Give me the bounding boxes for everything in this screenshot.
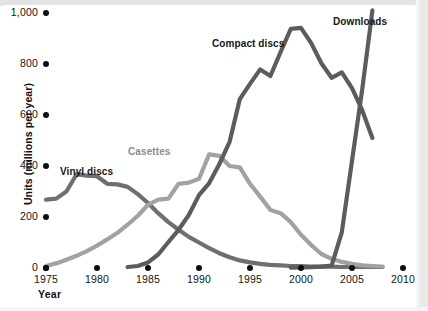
y-axis-title: Units (millions per year) xyxy=(22,69,34,219)
series-line-vinyl-discs xyxy=(46,174,383,267)
x-tick-label: 1975 xyxy=(24,273,68,285)
series-label-vinyl-discs: Vinyl discs xyxy=(60,166,113,177)
y-tick-dot xyxy=(43,163,49,169)
y-tick-dot xyxy=(43,61,49,67)
x-tick-label: 2010 xyxy=(381,273,425,285)
series-line-downloads xyxy=(291,10,373,267)
x-tick-dot xyxy=(247,265,253,271)
x-tick-dot xyxy=(145,265,151,271)
chart-page: 02004006008001,0001975198019851990199520… xyxy=(0,0,428,311)
x-tick-dot xyxy=(349,265,355,271)
x-axis-title: Year xyxy=(38,288,61,300)
x-tick-dot xyxy=(400,265,406,271)
y-tick-dot xyxy=(43,214,49,220)
y-tick-dot xyxy=(43,112,49,118)
series-label-casettes: Casettes xyxy=(128,146,171,157)
x-tick-label: 2005 xyxy=(330,273,374,285)
y-tick-label: 0 xyxy=(0,261,38,273)
x-tick-label: 1995 xyxy=(228,273,272,285)
x-tick-label: 1990 xyxy=(177,273,221,285)
y-tick-label: 1,000 xyxy=(0,6,38,18)
x-tick-dot xyxy=(43,265,49,271)
x-tick-label: 1985 xyxy=(126,273,170,285)
x-tick-dot xyxy=(196,265,202,271)
series-label-downloads: Downloads xyxy=(333,16,387,27)
series-label-compact-discs: Compact discs xyxy=(212,38,284,49)
y-tick-label: 800 xyxy=(0,57,38,69)
x-tick-dot xyxy=(298,265,304,271)
x-tick-label: 1980 xyxy=(75,273,119,285)
y-tick-dot xyxy=(43,10,49,16)
x-tick-dot xyxy=(94,265,100,271)
x-tick-label: 2000 xyxy=(279,273,323,285)
